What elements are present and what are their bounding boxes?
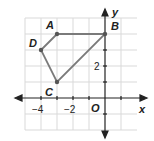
x-axis-label: x: [138, 103, 146, 115]
x-axis: [15, 95, 147, 101]
y-axis: [102, 9, 108, 138]
coordinate-plane: A B C D y x O −4 −2 2: [0, 0, 154, 141]
y-tick-2: 2: [94, 61, 100, 72]
point-a: [55, 32, 59, 36]
point-b: [103, 32, 107, 36]
label-a: A: [45, 19, 54, 31]
x-tick-neg2: −2: [64, 104, 76, 115]
label-b: B: [111, 20, 119, 32]
point-c: [55, 80, 59, 84]
point-d: [39, 48, 43, 52]
y-axis-label: y: [111, 6, 119, 18]
label-c: C: [45, 86, 54, 98]
x-tick-neg4: −4: [32, 104, 44, 115]
label-d: D: [29, 37, 37, 49]
origin-label: O: [91, 102, 100, 114]
